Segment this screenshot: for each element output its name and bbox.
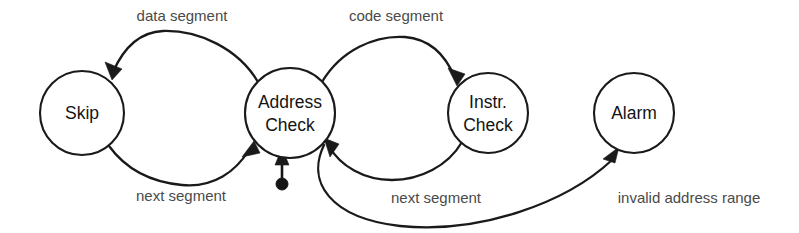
- transition-data-segment: data segment: [105, 7, 258, 82]
- edge-label-invalid-address-range: invalid address range: [618, 189, 761, 206]
- state-diagram: data segment next segment code segment n…: [0, 0, 799, 233]
- state-label-skip: Skip: [65, 103, 99, 123]
- arrowhead-data-segment: [105, 62, 122, 80]
- transition-next-segment-skip: next segment: [109, 141, 260, 204]
- transition-next-segment-instr: next segment: [324, 138, 482, 206]
- edge-path-code-segment: [322, 37, 455, 82]
- state-circle-instr-check[interactable]: [448, 73, 528, 153]
- transition-invalid-address-range: invalid address range: [318, 145, 760, 227]
- state-node-instr-check[interactable]: Instr. Check: [448, 73, 528, 153]
- initial-state-dot: [276, 178, 288, 190]
- state-node-skip[interactable]: Skip: [40, 71, 124, 155]
- state-label-alarm: Alarm: [611, 103, 657, 123]
- state-diagram-canvas: data segment next segment code segment n…: [0, 0, 799, 233]
- edge-path-invalid-address-range: [318, 145, 612, 227]
- state-circle-address-check[interactable]: [245, 68, 335, 158]
- edge-label-data-segment: data segment: [137, 7, 229, 24]
- state-label-instr-check-line2: Check: [463, 115, 513, 135]
- state-node-address-check[interactable]: Address Check: [245, 68, 335, 158]
- edge-label-next-segment-skip: next segment: [136, 187, 227, 204]
- edge-path-next-segment-instr: [329, 142, 462, 180]
- edge-label-code-segment: code segment: [349, 7, 444, 24]
- state-label-address-check-line2: Check: [265, 115, 315, 135]
- edge-label-next-segment-instr: next segment: [391, 189, 482, 206]
- state-node-alarm[interactable]: Alarm: [594, 73, 674, 153]
- edge-path-data-segment: [113, 31, 258, 82]
- transition-code-segment: code segment: [322, 7, 465, 86]
- edge-path-next-segment-skip: [109, 146, 249, 185]
- state-label-address-check-line1: Address: [258, 92, 322, 112]
- state-label-instr-check-line1: Instr.: [469, 92, 507, 112]
